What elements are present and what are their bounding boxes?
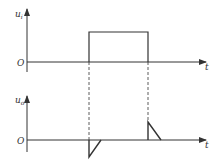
positive-spike <box>148 122 161 140</box>
origin-label-bottom: O <box>17 136 25 146</box>
negative-spike <box>89 140 101 157</box>
y-label-bottom: uo <box>15 95 25 106</box>
input-plot: ui O t <box>15 9 209 72</box>
waveform-diagram: ui O t uo O t <box>0 0 221 168</box>
t-label-bottom: t <box>205 140 209 150</box>
t-label-top: t <box>205 62 209 72</box>
output-plot: uo O t <box>15 95 209 157</box>
y-label-top: ui <box>15 9 23 20</box>
pulse-waveform <box>89 32 148 62</box>
origin-label-top: O <box>17 58 25 68</box>
